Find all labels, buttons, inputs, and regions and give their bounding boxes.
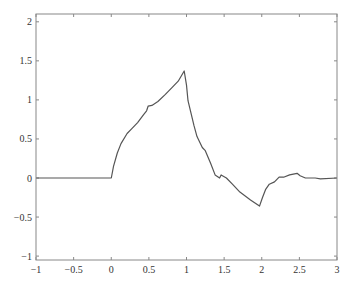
- y-tick-label: 0.5: [20, 133, 33, 144]
- y-axis-tick-labels: −1−0.500.511.52: [14, 16, 32, 261]
- y-tick-label: 1.5: [20, 55, 33, 66]
- x-tick-label: −0.5: [65, 264, 83, 275]
- x-tick-label: 2: [259, 264, 264, 275]
- y-tick-label: −0.5: [14, 212, 32, 223]
- x-tick-label: −1: [31, 264, 42, 275]
- x-axis-tick-labels: −1−0.500.511.522.53: [31, 264, 340, 275]
- x-tick-label: 1: [184, 264, 189, 275]
- y-tick-label: 2: [27, 16, 32, 27]
- y-tick-label: 1: [27, 94, 32, 105]
- x-tick-label: 2.5: [293, 264, 306, 275]
- y-tick-label: −1: [21, 251, 32, 262]
- line-chart: −1−0.500.511.522.53 −1−0.500.511.52: [0, 0, 353, 289]
- x-tick-label: 3: [335, 264, 340, 275]
- x-tick-label: 1.5: [218, 264, 231, 275]
- x-tick-label: 0: [109, 264, 114, 275]
- x-tick-label: 0.5: [143, 264, 156, 275]
- plot-background: [36, 14, 337, 260]
- y-tick-label: 0: [27, 173, 32, 184]
